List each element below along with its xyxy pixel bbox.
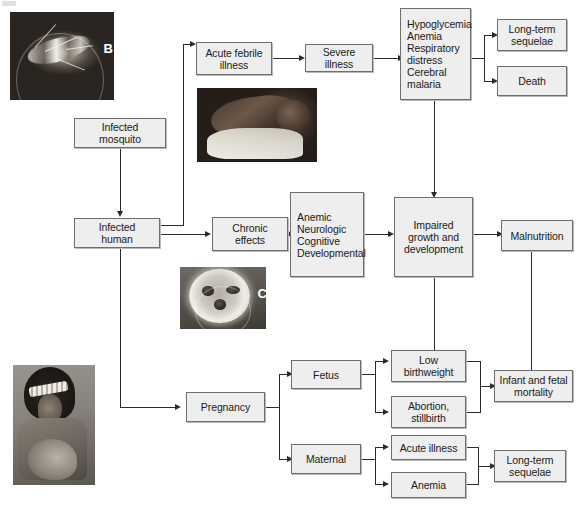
node-chronic-effects[interactable]: Chronic effects bbox=[212, 217, 288, 251]
node-impaired-growth-label: Impaired growth and development bbox=[398, 219, 469, 255]
link-human-to-acute-a bbox=[159, 225, 183, 226]
link-fetal-merge-spine bbox=[480, 361, 481, 413]
node-infected-mosquito[interactable]: Infected mosquito bbox=[74, 118, 166, 148]
link-chronic-to-symptoms bbox=[364, 234, 390, 235]
link-malnutrition-to-mortality bbox=[531, 252, 532, 375]
node-chronic-symptoms[interactable]: Anemic Neurologic Cognitive Developmenta… bbox=[290, 192, 364, 277]
link-mosquito-to-human bbox=[120, 146, 121, 214]
arrowhead-fetus-to-lbw bbox=[383, 358, 389, 364]
arrowhead-fetus-to-abortion bbox=[383, 409, 389, 415]
link-lbw-merge bbox=[466, 361, 480, 362]
node-severe-symptoms[interactable]: Hypoglycemia Anemia Respiratory distress… bbox=[400, 8, 471, 100]
link-symptoms-fan-spine bbox=[484, 35, 485, 81]
link-anemia-merge bbox=[466, 484, 478, 485]
node-severe-illness[interactable]: Severe illness bbox=[305, 44, 373, 72]
link-abortion-merge bbox=[466, 412, 480, 413]
link-human-to-pregnancy-b bbox=[120, 407, 177, 408]
node-acute-febrile-illness-label: Acute febrile illness bbox=[200, 47, 268, 71]
link-human-to-pregnancy-a bbox=[120, 248, 121, 407]
photo-blood-smear: C bbox=[180, 267, 266, 329]
node-pregnancy-label: Pregnancy bbox=[190, 401, 261, 413]
node-long-term-sequelae-bottom-label: Long-term sequelae bbox=[498, 454, 562, 478]
node-long-term-sequelae-top[interactable]: Long-term sequelae bbox=[497, 19, 567, 51]
node-abortion-stillbirth[interactable]: Abortion, stillbirth bbox=[391, 396, 466, 428]
photo-severe-infant bbox=[197, 88, 317, 162]
link-maternal-fan-spine bbox=[375, 447, 376, 484]
photo-caption-c: C bbox=[258, 287, 266, 300]
node-long-term-sequelae-bottom[interactable]: Long-term sequelae bbox=[494, 450, 566, 482]
node-acute-illness-label: Acute illness bbox=[395, 442, 462, 454]
node-acute-illness[interactable]: Acute illness bbox=[391, 435, 466, 460]
node-infant-fetal-mortality-label: Infant and fetal mortality bbox=[498, 374, 569, 398]
node-abortion-stillbirth-label: Abortion, stillbirth bbox=[395, 400, 462, 424]
plate-artifact bbox=[2, 1, 16, 6]
node-infant-fetal-mortality[interactable]: Infant and fetal mortality bbox=[494, 370, 573, 402]
node-infected-mosquito-label: Infected mosquito bbox=[78, 121, 162, 145]
link-human-to-acute-b bbox=[183, 44, 184, 226]
node-malnutrition-label: Malnutrition bbox=[505, 230, 569, 242]
photo-mother-and-infant bbox=[13, 365, 95, 485]
arrowhead-mosquito-to-human bbox=[117, 211, 123, 217]
node-impaired-growth[interactable]: Impaired growth and development bbox=[394, 197, 473, 277]
arrowhead-human-to-pregnancy bbox=[175, 404, 181, 410]
node-low-birthweight-label: Low birthweight bbox=[395, 354, 462, 378]
node-severe-symptoms-label: Hypoglycemia Anemia Respiratory distress… bbox=[407, 18, 467, 90]
link-human-to-chronic bbox=[159, 234, 207, 235]
node-severe-illness-label: Severe illness bbox=[309, 46, 369, 70]
node-infected-human-label: Infected human bbox=[78, 221, 156, 245]
arrowhead-maternal-to-acute bbox=[383, 444, 389, 450]
node-chronic-symptoms-label: Anemic Neurologic Cognitive Developmenta… bbox=[297, 211, 360, 259]
link-severe-to-symptoms bbox=[372, 58, 400, 59]
node-infected-human[interactable]: Infected human bbox=[74, 218, 160, 248]
node-malnutrition[interactable]: Malnutrition bbox=[501, 220, 573, 251]
link-fetus-fan-spine bbox=[375, 361, 376, 413]
node-anemia-label: Anemia bbox=[395, 479, 462, 491]
link-symptoms-fan-stem bbox=[470, 58, 484, 59]
node-fetus-label: Fetus bbox=[295, 369, 357, 381]
link-maternal-fan-stem bbox=[361, 459, 375, 460]
arrowhead-human-to-chronic bbox=[205, 231, 211, 237]
link-impaired-to-malnutrition bbox=[473, 234, 499, 235]
link-pregnancy-fan-stem bbox=[265, 407, 279, 408]
node-acute-febrile-illness[interactable]: Acute febrile illness bbox=[196, 42, 272, 75]
node-maternal[interactable]: Maternal bbox=[291, 444, 361, 474]
link-fetus-fan-stem bbox=[361, 374, 375, 375]
node-long-term-sequelae-top-label: Long-term sequelae bbox=[501, 23, 563, 47]
node-pregnancy[interactable]: Pregnancy bbox=[186, 392, 265, 422]
photo-infected-mosquito: B bbox=[10, 12, 114, 100]
link-symptoms-to-impaired bbox=[434, 99, 435, 195]
node-fetus[interactable]: Fetus bbox=[291, 360, 361, 389]
link-acute-to-severe bbox=[271, 58, 301, 59]
node-death-label: Death bbox=[501, 75, 563, 87]
node-low-birthweight[interactable]: Low birthweight bbox=[391, 350, 466, 382]
link-acuteillness-merge bbox=[466, 447, 478, 448]
link-pregnancy-fan-spine bbox=[279, 374, 280, 459]
arrowhead-maternal-to-anemia bbox=[383, 481, 389, 487]
photo-caption-b: B bbox=[104, 42, 113, 55]
node-maternal-label: Maternal bbox=[295, 453, 357, 465]
node-death[interactable]: Death bbox=[497, 66, 567, 96]
node-anemia[interactable]: Anemia bbox=[391, 472, 466, 498]
figure-flowchart: B C bbox=[0, 0, 579, 520]
node-chronic-effects-label: Chronic effects bbox=[216, 222, 284, 246]
